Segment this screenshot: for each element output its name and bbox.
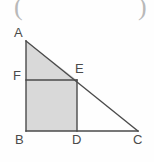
vertex-label-d: D bbox=[72, 133, 82, 146]
left-paren-fragment: ( bbox=[14, 0, 23, 20]
vertex-label-c: C bbox=[133, 133, 143, 146]
rectangle-FBDE bbox=[26, 80, 77, 131]
shaded-region-layer bbox=[26, 41, 77, 131]
vertex-label-e: E bbox=[75, 62, 84, 75]
vertex-label-b: B bbox=[15, 133, 24, 146]
vertex-label-f: F bbox=[13, 69, 21, 82]
right-paren-fragment: ) bbox=[138, 0, 147, 20]
geometry-figure: AFEBDC () bbox=[0, 0, 154, 162]
vertex-label-a: A bbox=[14, 26, 23, 39]
